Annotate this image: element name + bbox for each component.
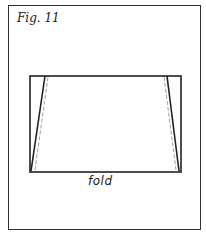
- right-fold-line: [167, 76, 179, 171]
- left-seam-dashed: [35, 77, 48, 170]
- fabric-rectangle: [30, 76, 181, 172]
- fold-label: fold: [88, 174, 113, 188]
- right-seam-dashed: [164, 77, 176, 170]
- fold-diagram: [0, 0, 206, 238]
- left-fold-line: [31, 76, 45, 171]
